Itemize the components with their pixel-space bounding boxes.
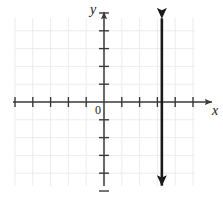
y-axis-label: y (88, 2, 97, 17)
origin-label: 0 (95, 103, 101, 117)
graph-canvas: y x 0 (0, 0, 223, 199)
coordinate-plane-figure: y x 0 (0, 0, 223, 199)
x-axis-label: x (211, 103, 219, 118)
